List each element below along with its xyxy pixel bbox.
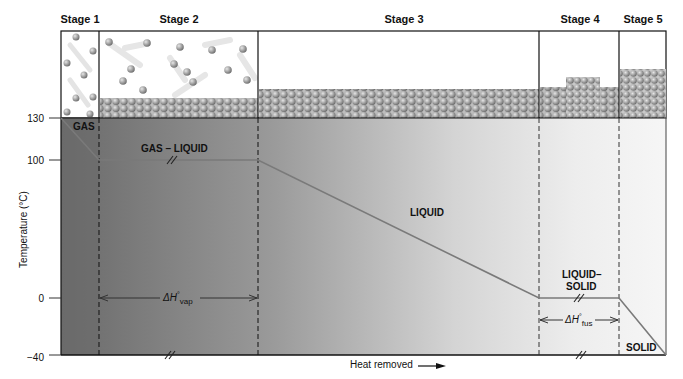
stage-4-solid-cluster <box>566 77 600 118</box>
region-gas-liquid-label: GAS – LIQUID <box>141 143 208 154</box>
stage-3-liquid-bed <box>259 89 539 118</box>
y-tick-130: 130 <box>4 113 44 124</box>
region-liquid-solid-label-2: SOLID <box>566 281 597 292</box>
y-tick-100: 100 <box>4 155 44 166</box>
region-solid-label: SOLID <box>626 342 657 353</box>
dh-vap-label: ΔH°vap <box>163 291 193 306</box>
plot-area <box>49 118 666 369</box>
heat-removed-arrow <box>418 363 446 369</box>
x-axis-label: Heat removed <box>350 359 413 370</box>
region-liquid-solid-label-1: LIQUID– <box>562 269 601 280</box>
region-gas-label: GAS <box>73 121 95 132</box>
y-tick-0: 0 <box>4 293 44 304</box>
y-tick-minus-40: −40 <box>4 352 44 363</box>
region-liquid-label: LIQUID <box>410 207 444 218</box>
stage-5-solid-bed <box>620 69 666 118</box>
dh-fus-label: ΔH°fus <box>565 313 592 328</box>
molecular-illustration-panel <box>61 31 666 118</box>
stage-2-liquid-bed <box>100 98 258 118</box>
y-axis-label: Temperature (°C) <box>18 185 29 275</box>
